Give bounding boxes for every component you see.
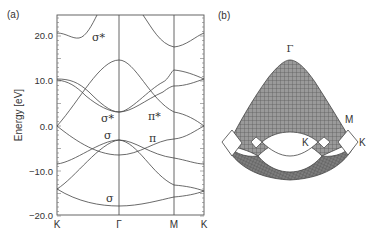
surface-label-m: M: [345, 114, 353, 125]
y-axis-label: Energy [eV]: [13, 89, 24, 141]
x-tick-labels: K Γ M K: [54, 219, 208, 230]
band-structure-chart: 20.0 10.0 0.0 −10.0 −20.0 Energy [eV] K …: [0, 0, 375, 241]
ytick-20: 20.0: [35, 30, 54, 41]
surface-label-k-right: K: [359, 137, 366, 148]
ytick-neg20: −20.0: [29, 210, 53, 221]
svg-text:π*: π*: [148, 110, 161, 123]
ytick-10: 10.0: [35, 75, 54, 86]
y-tick-labels: 20.0 10.0 0.0 −10.0 −20.0: [29, 30, 53, 221]
svg-text:σ*: σ*: [101, 112, 115, 125]
svg-text:σ: σ: [104, 129, 112, 142]
band-curves: [57, 15, 204, 206]
svg-text:σ: σ: [106, 192, 114, 205]
ytick-neg10: −10.0: [29, 166, 53, 177]
svg-text:π: π: [149, 132, 156, 145]
surface-label-k-center: K: [302, 137, 309, 148]
axis-ticks: [57, 18, 204, 216]
xtick-m: M: [170, 219, 178, 230]
xtick-k-right: K: [201, 219, 208, 230]
surface-label-gamma: Γ: [287, 43, 294, 54]
xtick-k-left: K: [54, 219, 61, 230]
xtick-gamma: Γ: [116, 219, 122, 230]
svg-text:σ*: σ*: [92, 31, 106, 44]
surface-plot: Γ M K K: [222, 43, 366, 180]
ytick-0: 0.0: [40, 121, 53, 132]
band-annotations: σ* σ* π* σ π σ: [92, 31, 161, 205]
